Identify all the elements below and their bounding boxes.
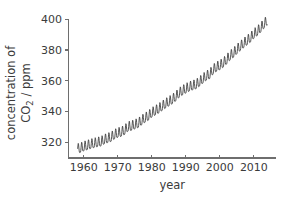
x-tick-label-1970: 1970 bbox=[104, 161, 132, 174]
y-axis-title-line1: concentration of bbox=[4, 45, 18, 140]
y-tick-label-340: 340 bbox=[41, 105, 62, 118]
y-axis-title-line2: CO2 / ppm bbox=[19, 63, 35, 123]
x-tick-label-1990: 1990 bbox=[172, 161, 200, 174]
co2-concentration-chart: 320340360380400 196019701980199020002010… bbox=[0, 0, 282, 200]
x-axis-ticks: 196019701980199020002010 bbox=[70, 155, 268, 175]
y-tick-label-360: 360 bbox=[41, 75, 62, 88]
y-tick-label-400: 400 bbox=[41, 13, 62, 26]
co2-data-line bbox=[78, 17, 268, 152]
x-tick-label-2010: 2010 bbox=[240, 161, 268, 174]
x-tick-label-1960: 1960 bbox=[70, 161, 98, 174]
y-tick-label-320: 320 bbox=[41, 136, 62, 149]
y-axis-ticks: 320340360380400 bbox=[41, 13, 69, 149]
y-axis-title: concentration ofCO2 / ppm bbox=[4, 45, 35, 140]
chart-canvas: 320340360380400 196019701980199020002010… bbox=[0, 0, 282, 200]
x-axis-title: year bbox=[159, 178, 185, 192]
y-tick-label-380: 380 bbox=[41, 44, 62, 57]
x-tick-label-1980: 1980 bbox=[138, 161, 166, 174]
x-tick-label-2000: 2000 bbox=[206, 161, 234, 174]
